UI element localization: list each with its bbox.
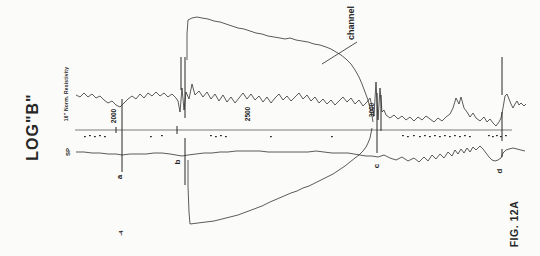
depth-tick-label: 2500 — [244, 106, 251, 121]
channel-leader-line — [322, 42, 357, 64]
well-log-plot: 200025003000abcd — [0, 0, 540, 256]
depth-dot — [419, 136, 421, 137]
depth-dot — [469, 136, 471, 137]
channel-annotation-label: channel — [347, 6, 356, 40]
depth-dot — [270, 136, 272, 137]
depth-dot — [492, 136, 494, 137]
resistivity-curve — [76, 82, 526, 126]
depth-dot — [429, 136, 431, 137]
sp-curve — [76, 146, 525, 162]
figure-caption: FIG. 12A — [509, 201, 520, 248]
depth-dot — [104, 136, 106, 137]
depth-dot — [459, 136, 461, 137]
depth-dot — [444, 135, 446, 136]
depth-dot — [94, 136, 96, 137]
depth-dot — [225, 136, 227, 137]
marker-label-b: b — [173, 159, 182, 164]
depth-dot — [210, 135, 212, 136]
sp-axis-label: SP — [65, 148, 71, 156]
marker-label-d: d — [495, 168, 504, 173]
depth-dot — [84, 136, 86, 137]
depth-dot — [434, 135, 436, 136]
depth-dot — [89, 135, 91, 136]
depth-dot — [439, 136, 441, 137]
resistivity-axis-label: 16" Norm. Resistivity — [64, 67, 69, 121]
depth-dot — [496, 135, 498, 136]
channel-lower-boundary — [188, 128, 372, 224]
depth-dot — [488, 135, 490, 136]
depth-dot — [500, 136, 502, 137]
depth-dot — [464, 135, 466, 136]
stray-mark: -4 — [118, 230, 124, 235]
depth-dot — [150, 136, 152, 137]
depth-dot — [424, 135, 426, 136]
depth-dot — [161, 135, 163, 136]
depth-dot — [413, 135, 415, 136]
depth-dot — [505, 135, 507, 136]
depth-dot — [331, 136, 333, 137]
depth-dot — [220, 135, 222, 136]
marker-label-c: c — [372, 163, 381, 168]
depth-tick-label: 3000 — [368, 102, 375, 117]
depth-dot — [454, 135, 456, 136]
depth-dot — [407, 136, 409, 137]
depth-dot — [449, 136, 451, 137]
depth-dot — [99, 135, 101, 136]
depth-dot — [215, 136, 217, 137]
depth-tick-label: 2000 — [110, 108, 117, 123]
depth-dot — [402, 135, 404, 136]
marker-label-a: a — [115, 174, 124, 179]
patent-figure-12a: 200025003000abcd LOG"B" 16" Norm. Resist… — [0, 0, 540, 256]
log-name-label: LOG"B" — [25, 93, 41, 160]
